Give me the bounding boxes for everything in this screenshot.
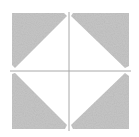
bottom-left-triangle <box>12 73 67 129</box>
top-left-triangle <box>12 13 67 68</box>
top-right-triangle <box>71 13 129 68</box>
geometric-diagram <box>0 0 139 137</box>
bottom-right-triangle <box>71 73 129 129</box>
